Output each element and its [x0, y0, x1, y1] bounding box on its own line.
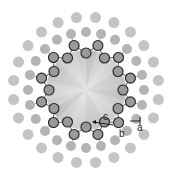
outer-atom — [66, 29, 76, 39]
outer-atom — [81, 27, 91, 37]
outer-atom — [153, 94, 164, 105]
outer-atom — [52, 135, 62, 145]
inner-atom — [113, 67, 123, 77]
outer-atom — [36, 142, 47, 153]
inner-atom — [49, 67, 59, 77]
outer-atom — [131, 56, 141, 66]
label-b: b — [119, 128, 125, 139]
outer-atom — [8, 75, 19, 86]
outer-atom — [53, 17, 64, 28]
inner-atom — [44, 85, 54, 95]
outer-atom — [90, 12, 101, 23]
outer-atom — [122, 44, 132, 54]
inner-atom — [118, 85, 128, 95]
inner-atom — [63, 117, 73, 127]
outer-atom — [96, 29, 106, 39]
outer-atom — [71, 12, 82, 23]
outer-atom — [23, 85, 33, 95]
inner-atom — [49, 104, 59, 114]
outer-atom — [53, 152, 64, 163]
label-c: c — [103, 111, 108, 122]
outer-atom — [36, 27, 47, 38]
inner-atom — [81, 48, 91, 58]
outer-atom — [108, 17, 119, 28]
outer-atom — [31, 114, 41, 124]
inner-atom — [69, 41, 79, 51]
inner-atom — [48, 52, 58, 62]
outer-atom — [40, 44, 50, 54]
outer-atom — [31, 56, 41, 66]
inner-atom — [37, 73, 47, 83]
nanotube-cross-section-diagram: c b a — [0, 0, 173, 180]
inner-atom — [113, 104, 123, 114]
inner-atom — [114, 52, 124, 62]
outer-atom — [13, 112, 24, 123]
outer-atom — [137, 70, 147, 80]
outer-atom — [25, 70, 35, 80]
outer-atom — [108, 152, 119, 163]
outer-atom — [90, 157, 101, 168]
inner-atom — [114, 118, 124, 128]
outer-atom — [25, 100, 35, 110]
outer-atom — [148, 57, 159, 68]
outer-atom — [110, 35, 120, 45]
outer-atom — [96, 141, 106, 151]
outer-atom — [139, 85, 149, 95]
outer-atom — [23, 40, 34, 51]
outer-atom — [81, 143, 91, 153]
label-a: a — [137, 122, 143, 133]
outer-atom — [71, 157, 82, 168]
inner-atom — [81, 122, 91, 132]
outer-atom — [148, 112, 159, 123]
outer-atom — [125, 142, 136, 153]
inner-atom — [63, 53, 73, 63]
outer-atom — [13, 57, 24, 68]
inner-atom — [93, 41, 103, 51]
inner-atom — [100, 53, 110, 63]
inner-atom — [93, 129, 103, 139]
outer-atom — [52, 35, 62, 45]
inner-atom — [125, 97, 135, 107]
outer-atom — [125, 27, 136, 38]
outer-atom — [40, 126, 50, 136]
outer-atom — [23, 129, 34, 140]
inner-atom — [48, 118, 58, 128]
inner-atom — [125, 73, 135, 83]
outer-atom — [138, 40, 149, 51]
outer-atom — [137, 100, 147, 110]
outer-atom — [66, 141, 76, 151]
outer-atom — [153, 75, 164, 86]
inner-atom — [37, 97, 47, 107]
core-shading-rays — [46, 50, 126, 130]
outer-atom — [8, 94, 19, 105]
inner-atom — [69, 129, 79, 139]
